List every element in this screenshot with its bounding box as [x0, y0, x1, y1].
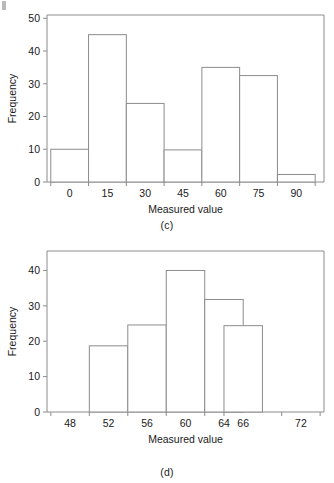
histogram-c: 010203040500153045607590Measured valueFr… — [0, 0, 334, 219]
histogram-bar — [51, 149, 89, 182]
x-axis-tick-label: 56 — [141, 417, 153, 429]
y-axis-title: Frequency — [6, 306, 18, 356]
histogram-bar — [126, 103, 164, 182]
y-axis-tick-label: 40 — [28, 264, 40, 276]
x-axis-tick-label: 72 — [295, 417, 307, 429]
x-axis-tick-label: 30 — [139, 187, 151, 199]
x-axis-title: Measured value — [148, 203, 223, 215]
histogram-bar — [240, 76, 278, 182]
y-axis-title: Frequency — [6, 73, 18, 123]
y-axis-tick-label: 10 — [28, 143, 40, 155]
y-axis-tick-label: 0 — [34, 176, 40, 188]
histogram-bar — [128, 325, 166, 412]
x-axis-tick-label: 0 — [67, 187, 73, 199]
histogram-bar — [224, 326, 262, 412]
y-axis-tick-label: 20 — [28, 110, 40, 122]
histogram-bar — [89, 35, 127, 182]
y-axis-tick-label: 30 — [28, 78, 40, 90]
x-axis-tick-label: 52 — [103, 417, 115, 429]
figure-c-caption: (c) — [0, 219, 334, 231]
x-axis-tick-label: 48 — [64, 417, 76, 429]
y-axis-tick-label: 50 — [28, 12, 40, 24]
histogram-bar — [89, 346, 127, 412]
y-axis-tick-label: 40 — [28, 45, 40, 57]
x-axis-tick-label: 66 — [237, 417, 249, 429]
figure-d: 01020304048525660646672Measured valueFre… — [0, 240, 334, 483]
y-axis-tick-label: 0 — [34, 406, 40, 418]
x-axis-tick-label: 60 — [215, 187, 227, 199]
x-axis-tick-label: 64 — [218, 417, 230, 429]
y-axis-tick-label: 20 — [28, 335, 40, 347]
y-axis-tick-label: 30 — [28, 300, 40, 312]
x-axis-tick-label: 90 — [290, 187, 302, 199]
figure-d-caption: (d) — [0, 466, 334, 478]
x-axis-tick-label: 60 — [180, 417, 192, 429]
y-axis-tick-label: 10 — [28, 370, 40, 382]
histogram-bar — [166, 270, 204, 412]
figure-page: 010203040500153045607590Measured valueFr… — [0, 0, 334, 483]
histogram-d: 01020304048525660646672Measured valueFre… — [0, 240, 334, 466]
histogram-bar — [277, 174, 315, 182]
histogram-bar — [164, 150, 202, 182]
x-axis-tick-label: 15 — [102, 187, 114, 199]
x-axis-tick-label: 75 — [253, 187, 265, 199]
histogram-bar — [202, 67, 240, 182]
x-axis-tick-label: 45 — [177, 187, 189, 199]
figure-c: 010203040500153045607590Measured valueFr… — [0, 0, 334, 240]
x-axis-title: Measured value — [148, 433, 223, 445]
